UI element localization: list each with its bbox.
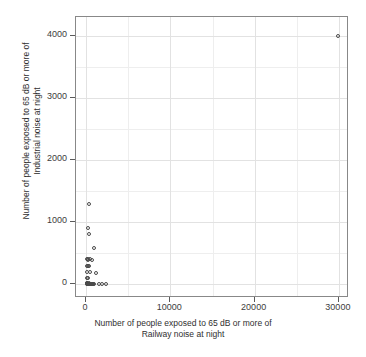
data-point xyxy=(92,246,96,250)
x-axis-tick-label: 30000 xyxy=(325,303,350,312)
y-axis-title-line: Number of people exposed to 65 dB or mor… xyxy=(21,3,32,259)
y-axis-tick xyxy=(70,221,75,222)
y-axis-title-line: Industrial noise at night xyxy=(32,3,43,259)
x-axis-title-line: Number of people exposed to 65 dB or mor… xyxy=(0,318,366,329)
y-axis-tick-label: 1000 xyxy=(47,216,67,225)
y-axis-tick xyxy=(70,97,75,98)
y-axis-tick-label: 3000 xyxy=(47,92,67,101)
data-point xyxy=(87,264,91,268)
x-axis-tick-label: 10000 xyxy=(157,303,182,312)
scatter-plot-figure: 010002000300040000100002000030000 Number… xyxy=(0,0,366,357)
y-axis-tick xyxy=(70,283,75,284)
data-point xyxy=(86,276,90,280)
data-point xyxy=(336,34,340,38)
y-axis-title: Number of people exposed to 65 dB or mor… xyxy=(21,3,43,259)
x-axis-tick-label: 20000 xyxy=(241,303,266,312)
x-axis-tick-label: 0 xyxy=(83,303,88,312)
x-axis-title: Number of people exposed to 65 dB or mor… xyxy=(0,318,366,340)
data-point xyxy=(87,232,91,236)
data-point xyxy=(88,270,92,274)
data-point xyxy=(87,202,91,206)
data-points-layer xyxy=(76,17,347,296)
data-point xyxy=(86,226,90,230)
y-axis-tick xyxy=(70,35,75,36)
y-axis-tick xyxy=(70,159,75,160)
data-point xyxy=(94,271,98,275)
plot-panel xyxy=(75,16,348,297)
y-axis-tick-label: 4000 xyxy=(47,30,67,39)
data-point xyxy=(90,258,94,262)
x-axis-title-line: Railway noise at night xyxy=(0,329,366,340)
data-point xyxy=(104,282,108,286)
y-axis-tick-label: 2000 xyxy=(47,154,67,163)
y-axis-tick-label: 0 xyxy=(62,278,67,287)
